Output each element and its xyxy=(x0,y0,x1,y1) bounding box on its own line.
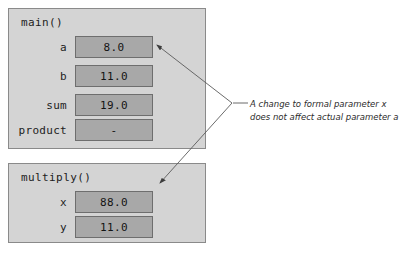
variable-row-b: b 11.0 xyxy=(9,65,207,87)
diagram-canvas: main() a 8.0 b 11.0 sum 19.0 product - m… xyxy=(0,0,410,253)
variable-value-y: 11.0 xyxy=(75,216,153,238)
variable-value-a: 8.0 xyxy=(75,36,153,58)
variable-label-x: x xyxy=(9,196,75,209)
frame-multiply-title: multiply() xyxy=(21,171,91,184)
variable-value-product: - xyxy=(75,119,153,141)
variable-row-x: x 88.0 xyxy=(9,191,207,213)
variable-value-sum: 19.0 xyxy=(75,94,153,116)
frame-main: main() a 8.0 b 11.0 sum 19.0 product - xyxy=(8,8,206,149)
variable-row-sum: sum 19.0 xyxy=(9,94,207,116)
variable-label-product: product xyxy=(9,124,75,137)
frame-main-title: main() xyxy=(21,16,63,29)
frame-multiply: multiply() x 88.0 y 11.0 xyxy=(8,163,206,243)
variable-row-product: product - xyxy=(9,119,207,141)
variable-label-sum: sum xyxy=(9,99,75,112)
annotation-line-2: does not affect actual parameter a xyxy=(250,111,408,124)
variable-label-a: a xyxy=(9,41,75,54)
variable-row-a: a 8.0 xyxy=(9,36,207,58)
variable-row-y: y 11.0 xyxy=(9,216,207,238)
variable-label-b: b xyxy=(9,70,75,83)
annotation-text: A change to formal parameter x does not … xyxy=(250,98,408,123)
variable-label-y: y xyxy=(9,221,75,234)
annotation-line-1: A change to formal parameter x xyxy=(250,98,408,111)
variable-value-x: 88.0 xyxy=(75,191,153,213)
variable-value-b: 11.0 xyxy=(75,65,153,87)
